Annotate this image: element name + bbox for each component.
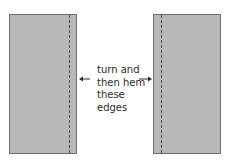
hem-instruction-label: turn and then hem these edges [97, 64, 145, 115]
right-fabric-panel [153, 14, 221, 154]
label-line-3: these [97, 89, 145, 102]
left-fabric-panel [9, 14, 77, 154]
label-line-1: turn and [97, 64, 145, 77]
label-line-4: edges [97, 102, 145, 115]
arrow-left-icon [79, 75, 91, 83]
left-panel-hem-line [69, 15, 70, 153]
right-panel-hem-line [161, 15, 162, 153]
label-line-2: then hem [97, 77, 145, 90]
